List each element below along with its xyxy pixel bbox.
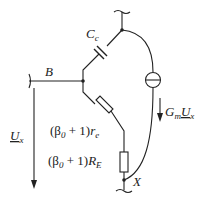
- current-arrow: [157, 98, 163, 122]
- voltage-arrow: [31, 88, 37, 189]
- voltage-label: Ux: [10, 128, 23, 145]
- resistor-re-icon: [96, 96, 113, 113]
- resistor-RE-icon: [120, 152, 128, 172]
- capacitor-wire: [83, 54, 99, 80]
- base-label: B: [45, 64, 53, 79]
- re-label: (β0 + 1)re: [50, 123, 99, 140]
- node-x-label: X: [132, 174, 142, 189]
- collector-arc: [122, 30, 153, 72]
- current-source-icon: [146, 73, 161, 88]
- emitter-wire: [83, 81, 95, 104]
- emitter-wire-lower: [111, 111, 124, 152]
- capacitor-label: Cc: [86, 26, 99, 43]
- capacitor-wire-upper: [107, 30, 122, 46]
- circuit-diagram: Cc B Ux X (β0 + 1)re (β0 + 1)RE: [0, 0, 207, 202]
- current-source-label: GmUx: [165, 104, 194, 121]
- RE-label: (β0 + 1)RE: [48, 153, 102, 170]
